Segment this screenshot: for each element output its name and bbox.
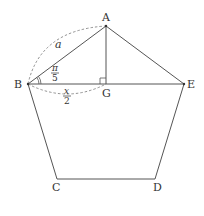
label-a: A: [101, 11, 111, 24]
half-x-numerator: x: [64, 86, 69, 96]
vertex-dot-e: [183, 83, 185, 85]
vertex-dot-a: [105, 25, 107, 27]
angle-denominator: 5: [52, 73, 58, 83]
half-x-denominator: 2: [64, 96, 70, 106]
angle-numerator: π: [51, 63, 59, 73]
side-label-a: a: [55, 38, 62, 51]
angle-arc-b-inner: [37, 77, 39, 84]
right-angle-marker: [100, 78, 106, 84]
vertex-dot-b: [27, 83, 29, 85]
pentagon-diagram: A B E G C D a π 5 x 2: [0, 0, 204, 216]
label-d: D: [153, 181, 162, 194]
label-e: E: [187, 78, 195, 91]
label-g: G: [102, 87, 111, 100]
label-c: C: [52, 181, 60, 194]
label-b: B: [14, 78, 22, 91]
